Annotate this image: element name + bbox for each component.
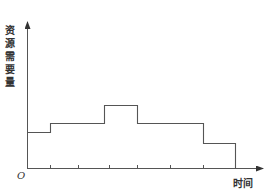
x-axis-label: 时间 xyxy=(233,175,253,190)
y-axis-label: 资 源 需 要 量 xyxy=(3,24,17,89)
y-label-char: 要 xyxy=(3,63,17,76)
resource-demand-diagram: 资 源 需 要 量 O 时间 xyxy=(0,0,275,193)
y-label-char: 源 xyxy=(3,37,17,50)
origin-label: O xyxy=(17,170,25,181)
x-ticks xyxy=(51,165,204,168)
step-chart xyxy=(0,0,275,193)
resource-step-line xyxy=(28,106,236,169)
y-label-char: 资 xyxy=(3,24,17,37)
y-label-char: 需 xyxy=(3,50,17,63)
y-label-char: 量 xyxy=(3,76,17,89)
